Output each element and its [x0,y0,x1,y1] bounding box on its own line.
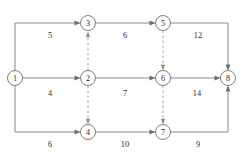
node-4[interactable]: 4 [81,125,96,140]
arrowhead-into-node-3-left [75,21,81,26]
node-1[interactable]: 1 [8,71,23,86]
edge-weight-5-to-8: 12 [194,31,202,40]
node-1-label: 1 [13,74,17,83]
edge-weight-1-to-4: 6 [48,140,52,149]
edge-weight-6-to-8: 14 [193,89,202,98]
arrowhead-into-node-6-top [161,65,165,71]
node-7[interactable]: 7 [156,125,171,140]
node-6-label: 6 [161,74,165,83]
node-8[interactable]: 8 [221,71,236,86]
node-7-label: 7 [161,128,165,137]
node-5-label: 5 [161,19,165,28]
node-2[interactable]: 2 [81,71,96,86]
node-8-label: 8 [226,74,230,83]
node-6[interactable]: 6 [156,71,171,86]
edge-weight-3-to-5: 6 [123,31,127,40]
arrowhead-into-node-2-left [75,76,81,81]
node-5[interactable]: 5 [156,16,171,31]
graph-diagram: 1 2 3 4 5 6 7 8 [0,0,246,155]
edge-weight-1-to-3: 5 [48,31,52,40]
node-4-label: 4 [86,128,90,137]
arrowhead-into-node-8-left [215,76,221,81]
graph-canvas: 1 2 3 4 5 6 7 8 [0,0,246,155]
arrowhead-into-node-5-left [150,21,156,26]
node-3-label: 3 [86,19,90,28]
arrowhead-into-node-8-bottom [226,86,231,92]
arrowhead-into-node-6-left [150,76,156,81]
arrowhead-into-node-8-top [226,65,231,71]
edge-weight-1-to-2: 4 [48,89,53,98]
arrowhead-into-node-4-left [75,130,81,135]
node-3[interactable]: 3 [81,16,96,31]
arrowhead-into-node-4-top [86,119,90,125]
edge-weight-2-to-6: 7 [123,89,127,98]
arrowhead-into-node-7-left [150,130,156,135]
edge-weight-4-to-7: 10 [121,140,129,149]
edge-weight-7-to-8: 9 [196,140,200,149]
node-2-label: 2 [86,74,90,83]
arrowhead-into-node-7-top [161,119,165,125]
arrowhead-into-node-3-bottom [86,32,90,38]
